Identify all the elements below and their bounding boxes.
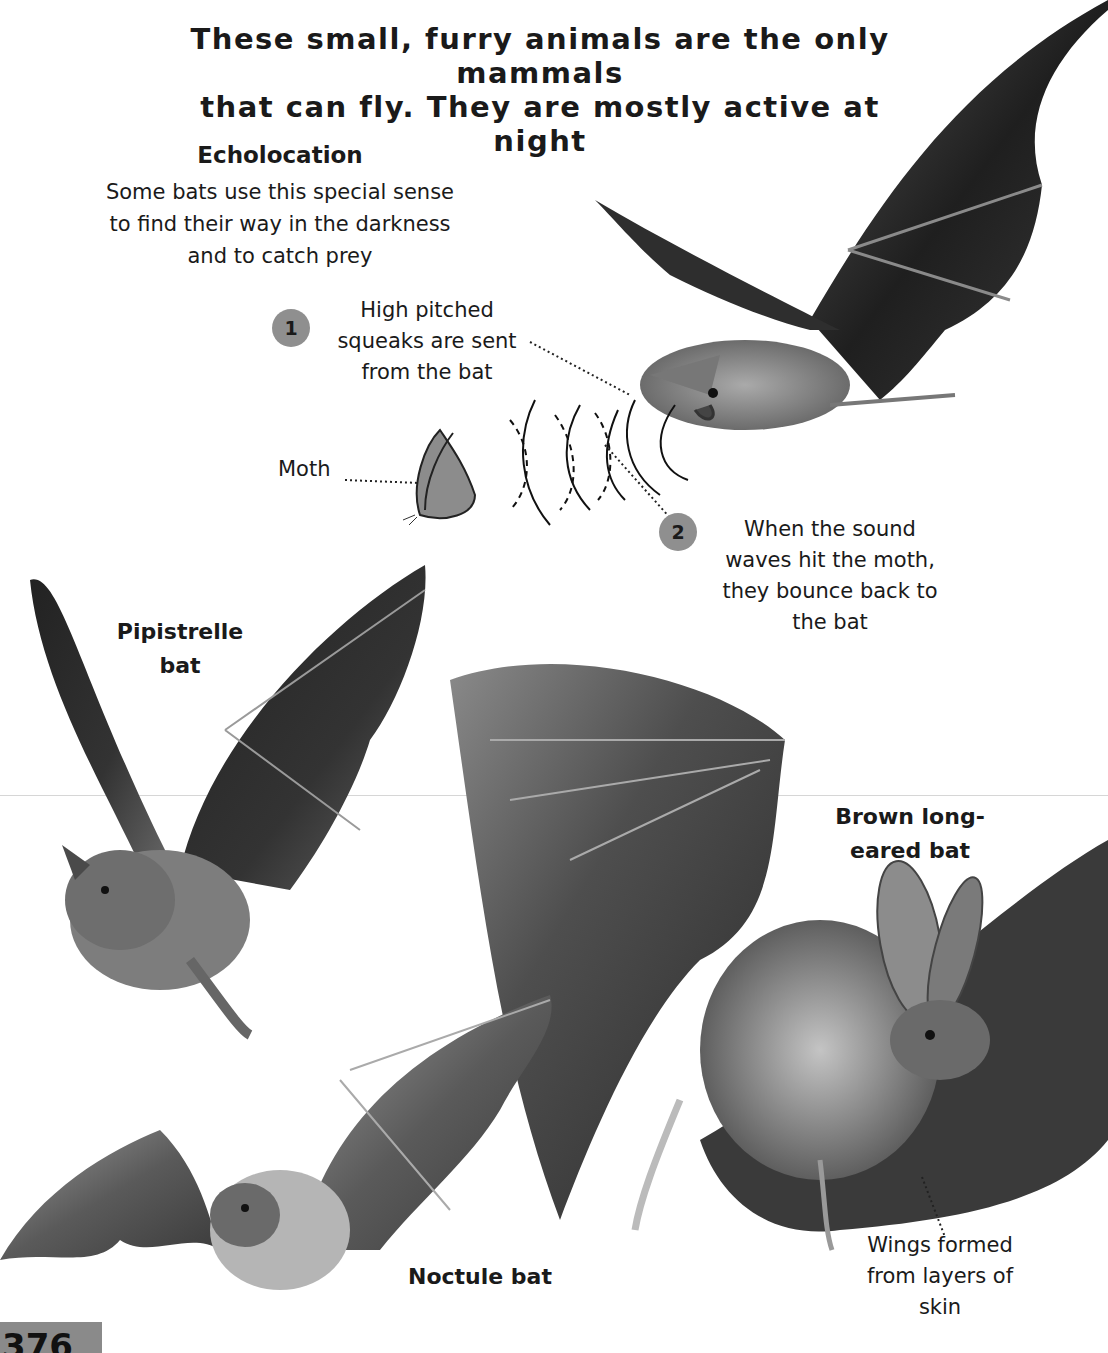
noctule-bat-label: Noctule bat (390, 1260, 570, 1294)
step-1-leader-line (530, 340, 640, 400)
brown-long-eared-bat-label: Brown long- eared bat (810, 800, 1010, 868)
wings-note: Wings formed from layers of skin (845, 1230, 1035, 1323)
callout-line: skin (845, 1292, 1035, 1323)
label-line: Pipistrelle (100, 615, 260, 649)
moth-illustration (395, 425, 485, 525)
label-line: Brown long- (810, 800, 1010, 834)
echolocation-line: to find their way in the darkness (80, 208, 480, 240)
step-1-badge: 1 (272, 309, 310, 347)
callout-line: waves hit the moth, (705, 545, 955, 576)
callout-line: Wings formed (845, 1230, 1035, 1261)
label-line: bat (100, 649, 260, 683)
noctule-bat-illustration (0, 990, 640, 1290)
label-line: Noctule bat (390, 1260, 570, 1294)
step-2-badge: 2 (659, 513, 697, 551)
pipistrelle-bat-label: Pipistrelle bat (100, 615, 260, 683)
echolocation-description: Some bats use this special sense to find… (80, 176, 480, 272)
echolocation-title: Echolocation (90, 142, 470, 168)
callout-line: High pitched (322, 295, 532, 326)
echolocation-line: Some bats use this special sense (80, 176, 480, 208)
moth-label: Moth (278, 457, 331, 481)
callout-line: When the sound (705, 514, 955, 545)
callout-line: from layers of (845, 1261, 1035, 1292)
callout-line: they bounce back to (705, 576, 955, 607)
label-line: eared bat (810, 834, 1010, 868)
callout-line: the bat (705, 607, 955, 638)
page-number: 376 (0, 1322, 102, 1353)
echolocation-line: and to catch prey (80, 240, 480, 272)
step-2-callout: When the sound waves hit the moth, they … (705, 514, 955, 638)
book-page: These small, furry animals are the only … (0, 0, 1108, 1353)
